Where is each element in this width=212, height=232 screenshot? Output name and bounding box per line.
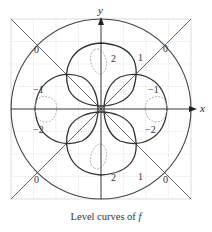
- caption-prefix: Level curves of: [71, 211, 139, 222]
- y-axis-label: y: [97, 4, 103, 16]
- label-zero-bottom-left: 0: [34, 174, 39, 185]
- label-left-neg-one: −1: [33, 84, 44, 95]
- label-top-one: 1: [138, 52, 143, 63]
- caption-function: f: [139, 211, 142, 222]
- label-right-neg-one: −1: [148, 84, 159, 95]
- level-2-curve-top: [90, 49, 106, 74]
- level-2-curve-bottom: [90, 144, 106, 169]
- y-axis-arrow-icon: [98, 17, 104, 25]
- label-top-two: 2: [111, 53, 116, 64]
- label-zero-bottom-right: 0: [163, 174, 168, 185]
- label-bottom-one: 1: [138, 171, 143, 182]
- contour-plot: x y 0 0 0 0 2 1 2 1 −1 −2 −1 −2: [0, 0, 212, 232]
- x-axis-label: x: [199, 102, 205, 114]
- label-zero-top-left: 0: [34, 44, 39, 55]
- label-bottom-two: 2: [111, 172, 116, 183]
- figure-caption: Level curves of f: [0, 211, 212, 222]
- label-zero-top-right: 0: [163, 43, 168, 54]
- label-right-neg-two: −2: [145, 124, 156, 135]
- label-left-neg-two: −2: [33, 124, 44, 135]
- x-axis-arrow-icon: [189, 106, 197, 112]
